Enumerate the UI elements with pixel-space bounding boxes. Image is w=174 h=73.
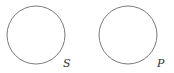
label-p: P: [156, 57, 165, 70]
diagram-canvas: S P: [0, 0, 174, 73]
label-s: S: [63, 57, 71, 70]
circle-s: [7, 6, 65, 64]
circle-p: [99, 6, 157, 64]
